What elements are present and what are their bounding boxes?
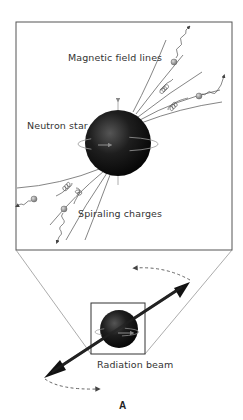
- label-magnetic-field-lines: Magnetic field lines: [68, 52, 162, 63]
- panel-label: A: [119, 400, 126, 411]
- rotation-arrow-lower: [45, 379, 98, 389]
- label-neutron-star: Neutron star: [27, 120, 88, 131]
- label-spiraling-charges: Spiraling charges: [78, 208, 162, 219]
- spiraling-charge-upper-2: [168, 76, 224, 111]
- spiraling-charge-lower-1: [17, 182, 72, 206]
- rotation-arrow-upper: [135, 268, 190, 280]
- label-radiation-beam: Radiation beam: [97, 359, 173, 370]
- pulsar-diagram: Magnetic field lines Neutron star Spiral…: [0, 0, 243, 420]
